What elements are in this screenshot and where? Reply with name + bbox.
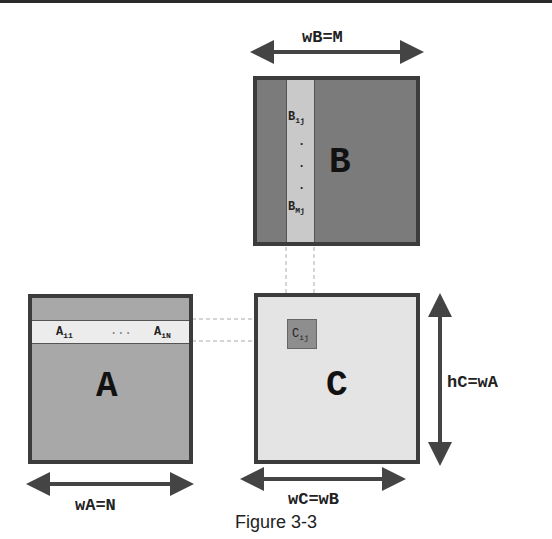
wb-label: wB=M bbox=[302, 28, 343, 47]
matrix-c: Cij C bbox=[254, 293, 420, 464]
b-dot-1: · bbox=[298, 138, 305, 152]
a-in-label: AiN bbox=[154, 325, 171, 340]
a-ellipsis: ... bbox=[110, 324, 132, 338]
figure-caption: Figure 3-3 bbox=[0, 512, 552, 533]
b-dot-3: · bbox=[298, 182, 305, 196]
b-dot-2: · bbox=[298, 160, 305, 174]
b-1j-label: B1j bbox=[288, 110, 305, 125]
wc-label: wC=wB bbox=[288, 490, 339, 509]
matrix-b-label: B bbox=[329, 142, 351, 183]
matrix-a: Ai1 ... AiN A bbox=[28, 294, 193, 464]
matrix-c-label: C bbox=[326, 365, 348, 406]
matrix-b: B1j · · · BMj B bbox=[253, 76, 420, 246]
a-i1-label: Ai1 bbox=[56, 325, 73, 340]
c-ij-label: Cij bbox=[292, 327, 309, 342]
matrix-c-cell: Cij bbox=[287, 319, 317, 349]
matrix-a-label: A bbox=[96, 366, 118, 407]
hc-label: hC=wA bbox=[447, 373, 498, 392]
b-mj-label: BMj bbox=[288, 200, 305, 215]
